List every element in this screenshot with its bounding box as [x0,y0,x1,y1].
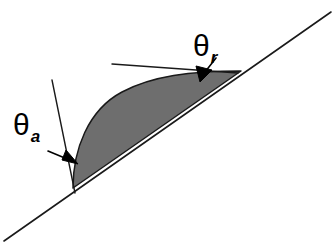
theta-subscript-advancing: a [31,127,40,146]
inclined-surface-line [4,12,331,241]
advancing-angle-label: θa [13,110,39,140]
theta-symbol-advancing: θ [13,108,30,141]
receding-tangent-line [112,64,238,73]
advancing-tangent-line [52,80,75,193]
contact-angle-diagram-svg [0,0,336,248]
theta-symbol-receding: θ [193,29,210,62]
receding-angle-label: θr [193,31,216,61]
advancing-angle-arrow [48,150,78,164]
droplet-shape [73,71,241,188]
figure-canvas: θa θr [0,0,336,248]
theta-subscript-receding: r [211,48,218,67]
